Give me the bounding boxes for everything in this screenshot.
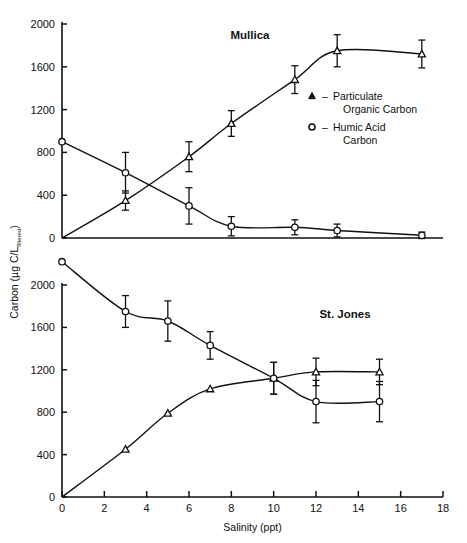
- data-point-circle: [292, 224, 298, 230]
- data-point-circle: [122, 308, 128, 314]
- data-point-circle: [419, 232, 425, 238]
- y-tick-label: 400: [37, 449, 55, 461]
- data-point-circle: [59, 139, 65, 145]
- x-tick-label: 12: [310, 502, 322, 514]
- data-point-triangle: [376, 368, 383, 374]
- y-tick-label: 1200: [31, 364, 55, 376]
- x-tick-label: 14: [352, 502, 364, 514]
- figure-canvas: 0400800120016002000Mullica04008001200160…: [0, 0, 467, 543]
- y-tick-label: 1600: [31, 61, 55, 73]
- data-point-circle: [165, 318, 171, 324]
- y-tick-label: 400: [37, 189, 55, 201]
- y-tick-label: 1600: [31, 321, 55, 333]
- x-tick-label: 2: [101, 502, 107, 514]
- series-line-hac: [62, 142, 422, 236]
- x-axis-title: Salinity (ppt): [223, 521, 281, 533]
- legend: –ParticulateOrganic Carbon–Humic AcidCar…: [309, 90, 418, 146]
- data-point-triangle: [312, 368, 319, 374]
- data-point-triangle: [122, 197, 129, 203]
- y-tick-label: 800: [37, 406, 55, 418]
- y-tick-label: 800: [37, 146, 55, 158]
- series-line-hac: [62, 262, 380, 404]
- series-line-poc: [62, 371, 380, 497]
- data-point-circle: [59, 258, 65, 264]
- x-tick-label: 8: [228, 502, 234, 514]
- panel-st-jones: 0400800120016002000St. Jones: [31, 258, 443, 503]
- x-tick-label: 4: [144, 502, 150, 514]
- legend-dash: –: [322, 90, 328, 102]
- legend-dash: –: [322, 121, 328, 133]
- data-point-circle: [334, 227, 340, 233]
- data-point-circle: [313, 398, 319, 404]
- panel-title-st-jones: St. Jones: [319, 308, 370, 320]
- legend-triangle-icon: [309, 93, 316, 99]
- data-point-circle: [228, 223, 234, 229]
- x-tick-label: 10: [268, 502, 280, 514]
- data-point-circle: [376, 398, 382, 404]
- legend-label-line2: Carbon: [343, 134, 378, 146]
- data-point-circle: [186, 203, 192, 209]
- data-point-circle: [207, 342, 213, 348]
- y-tick-label: 0: [49, 491, 55, 503]
- data-point-circle: [122, 170, 128, 176]
- panel-title-mullica: Mullica: [231, 29, 271, 41]
- x-tick-label: 18: [437, 502, 449, 514]
- data-point-circle: [270, 375, 276, 381]
- legend-circle-icon: [309, 124, 315, 130]
- x-tick-label: 16: [395, 502, 407, 514]
- legend-label-line1: Particulate: [333, 90, 383, 102]
- y-axis-title: Carbon (µg C/Lfiltered): [8, 225, 22, 319]
- y-tick-label: 2000: [31, 18, 55, 30]
- x-tick-label: 6: [186, 502, 192, 514]
- data-point-triangle: [418, 50, 425, 56]
- y-tick-label: 1200: [31, 104, 55, 116]
- legend-label-line1: Humic Acid: [333, 121, 386, 133]
- legend-label-line2: Organic Carbon: [343, 103, 417, 115]
- data-point-triangle: [334, 47, 341, 53]
- x-tick-label: 0: [59, 502, 65, 514]
- y-tick-label: 2000: [31, 279, 55, 291]
- data-point-triangle: [207, 385, 214, 391]
- y-tick-label: 0: [49, 232, 55, 244]
